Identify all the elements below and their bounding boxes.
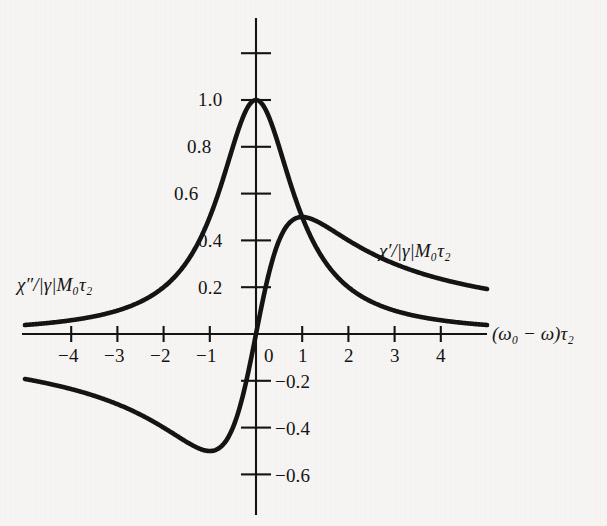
y-tick-label-0-8: 0.8 bbox=[187, 137, 211, 156]
x-tick-label-1: 1 bbox=[298, 346, 308, 365]
x-tick-label-0: 0 bbox=[264, 346, 274, 365]
x-tick-label-neg-4: −4 bbox=[58, 346, 79, 365]
y-tick-label-neg-0-6: −0.6 bbox=[275, 466, 310, 485]
chi-prime-curve-label: χ′/|γ|M₀τ₂ bbox=[379, 241, 451, 260]
plot-svg bbox=[0, 0, 607, 526]
chi-double-prime-curve-label: χ″/|γ|M₀τ₂ bbox=[17, 275, 92, 294]
x-axis-title: (ω₀ − ω)τ₂ bbox=[492, 324, 574, 343]
y-tick-label-0-2: 0.2 bbox=[198, 278, 222, 297]
x-tick-label-neg-1: −1 bbox=[196, 346, 217, 365]
figure-canvas: 1.0 0.8 0.6 0.4 0.2 −0.2 −0.4 −0.6 −4 −3… bbox=[0, 0, 607, 526]
y-tick-label-0-4: 0.4 bbox=[198, 231, 222, 250]
x-tick-label-2: 2 bbox=[344, 346, 354, 365]
x-tick-label-neg-2: −2 bbox=[150, 346, 171, 365]
y-tick-label-1-0: 1.0 bbox=[198, 90, 222, 109]
y-tick-label-neg-0-2: −0.2 bbox=[275, 372, 310, 391]
y-tick-label-0-6: 0.6 bbox=[174, 184, 198, 203]
x-tick-label-3: 3 bbox=[390, 346, 400, 365]
x-tick-label-neg-3: −3 bbox=[104, 346, 125, 365]
y-tick-label-neg-0-4: −0.4 bbox=[275, 419, 310, 438]
x-tick-label-4: 4 bbox=[436, 346, 446, 365]
